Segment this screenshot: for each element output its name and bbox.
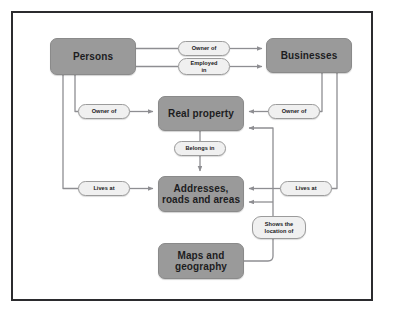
diagram-root: Persons Businesses Real property Address… [0, 0, 401, 312]
relationship-label: Shows the location of [265, 221, 294, 234]
entity-businesses[interactable]: Businesses [266, 38, 352, 73]
entity-addresses-label-line2: roads and areas [162, 194, 240, 206]
entity-addresses-label: Addresses, roads and areas [162, 183, 240, 206]
relationship-label: Owner of [92, 108, 117, 115]
entity-businesses-label: Businesses [281, 50, 338, 62]
entity-maps[interactable]: Maps and geography [158, 243, 244, 279]
relationship-label-line2: in [190, 67, 217, 74]
relationship-businesses-lives-at-addresses[interactable]: Lives at [280, 181, 332, 196]
connector-persons-to-livesat [63, 75, 78, 189]
relationship-real-property-belongs-in-addresses[interactable]: Belongs in [174, 141, 226, 156]
relationship-label: Owner of [192, 45, 217, 52]
entity-real-property[interactable]: Real property [158, 96, 244, 131]
relationship-persons-employed-in-businesses[interactable]: Employed in [178, 58, 230, 75]
entity-real-property-label: Real property [168, 108, 234, 120]
relationship-businesses-owner-of-real-property[interactable]: Owner of [268, 104, 320, 119]
entity-maps-label-line2: geography [175, 261, 227, 273]
relationship-label: Lives at [295, 185, 316, 192]
entity-maps-label-line1: Maps and [175, 250, 227, 262]
connector-maps-to-vertical [244, 128, 273, 261]
connector-businesses-to-livesat [332, 73, 337, 189]
relationship-label: Belongs in [185, 145, 214, 152]
entity-maps-label: Maps and geography [175, 250, 227, 273]
entity-persons[interactable]: Persons [50, 38, 136, 75]
connector-businesses-to-ownerof-realproperty [320, 73, 322, 112]
relationship-label-line2: location of [265, 228, 294, 235]
relationship-label: Employed in [190, 60, 217, 73]
relationship-label: Owner of [282, 108, 307, 115]
entity-persons-label: Persons [73, 51, 113, 63]
entity-addresses-label-line1: Addresses, [162, 183, 240, 195]
relationship-label-line1: Employed [190, 60, 217, 67]
relationship-persons-owner-of-real-property[interactable]: Owner of [78, 104, 130, 119]
relationship-persons-lives-at-addresses[interactable]: Lives at [78, 181, 130, 196]
entity-addresses[interactable]: Addresses, roads and areas [158, 176, 244, 212]
relationship-persons-owner-of-businesses[interactable]: Owner of [178, 41, 230, 56]
relationship-label-line1: Shows the [265, 221, 294, 228]
relationship-label: Lives at [93, 185, 114, 192]
connector-persons-to-ownerof-realproperty [75, 75, 78, 112]
relationship-maps-shows-location-of[interactable]: Shows the location of [252, 216, 306, 239]
